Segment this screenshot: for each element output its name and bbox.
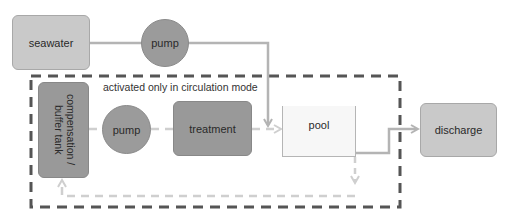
seawater-node: seawater bbox=[12, 15, 90, 70]
compensation-tank-node: compensation / buffer tank bbox=[38, 82, 89, 178]
pool-to-discharge-line bbox=[355, 129, 417, 153]
discharge-node: discharge bbox=[420, 103, 497, 157]
pump-top-node: pump bbox=[141, 19, 189, 67]
return-to-tank-line bbox=[62, 181, 355, 196]
pool-node: pool bbox=[282, 106, 356, 157]
discharge-label: discharge bbox=[435, 124, 483, 136]
pump-inner-node: pump bbox=[102, 105, 151, 154]
compensation-tank-label: compensation / buffer tank bbox=[51, 86, 77, 174]
circulation-group-label: activated only in circulation mode bbox=[103, 81, 258, 93]
treatment-label: treatment bbox=[189, 123, 235, 135]
pump-inner-label: pump bbox=[113, 124, 141, 136]
pump-top-label: pump bbox=[151, 37, 179, 49]
seawater-label: seawater bbox=[29, 37, 74, 49]
pool-label: pool bbox=[309, 119, 330, 131]
treatment-node: treatment bbox=[173, 101, 252, 156]
